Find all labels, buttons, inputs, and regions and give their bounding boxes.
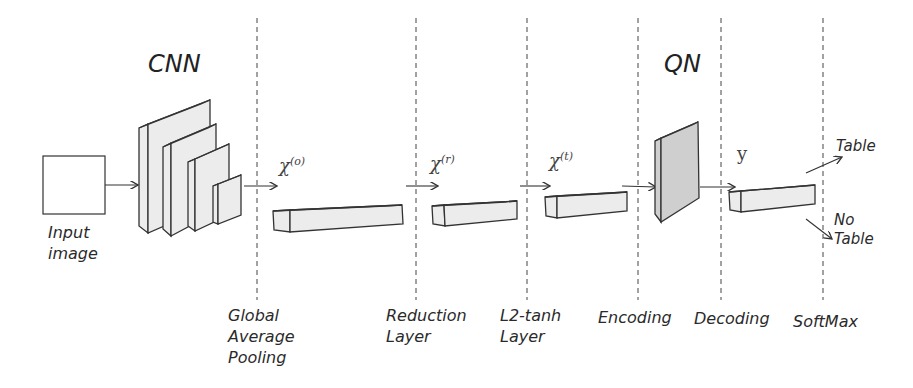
qn-title: QN (664, 50, 701, 78)
output-table-label: Table (836, 137, 876, 156)
cnn-title: CNN (148, 50, 201, 78)
cnn-blocks (139, 100, 241, 236)
qn-encoding-block (655, 122, 699, 222)
stage-label-global-average-pooling: Global Average Pooling (228, 305, 295, 368)
var-x-r: χ(r) (430, 153, 455, 174)
gap-vector (273, 205, 403, 232)
var-x-t: χ(t) (549, 150, 573, 171)
stage-label-decoding: Decoding (694, 308, 770, 329)
stage-label-reduction-layer: Reduction Layer (386, 305, 467, 347)
stage-label-l2-tanh-layer: L2-tanh Layer (500, 305, 561, 347)
input-image-label: Input image (48, 222, 98, 264)
input-image-box (43, 156, 105, 214)
var-x-o: χ(o) (279, 155, 305, 176)
output-no-table-label: No Table (834, 211, 874, 249)
var-y: y (737, 143, 747, 164)
arrow-to-encoding (622, 186, 656, 187)
decoding-vector (729, 185, 815, 212)
stage-label-softmax: SoftMax (793, 311, 858, 332)
stage-label-encoding: Encoding (598, 307, 672, 328)
arrow-to-no-table (806, 219, 832, 239)
arrow-to-table (806, 157, 842, 173)
l2tanh-vector (545, 192, 627, 218)
reduction-vector (432, 201, 517, 226)
